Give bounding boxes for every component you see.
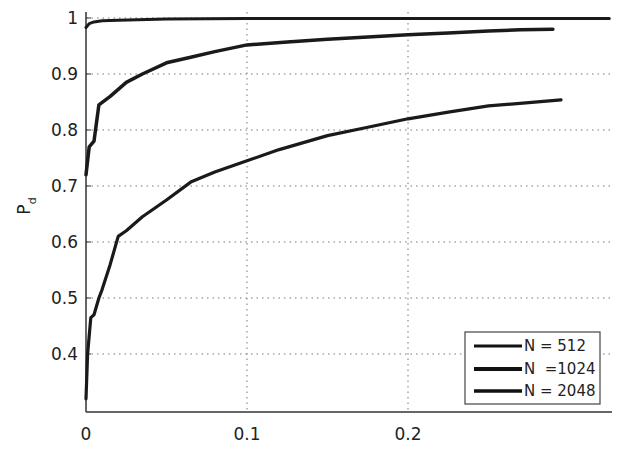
y-axis-label-main: P <box>14 204 34 214</box>
y-tick-label: 1 <box>67 8 78 28</box>
y-axis-label: Pd <box>14 197 39 214</box>
y-tick-label: 0.4 <box>51 344 78 364</box>
y-tick-label: 0.6 <box>51 232 78 252</box>
legend-label-512: N = 512 <box>524 337 586 355</box>
x-tick-label: 0.1 <box>233 424 260 444</box>
legend-label-2048: N = 2048 <box>524 382 596 400</box>
chart-figure: 0.40.50.60.70.80.9100.10.2 Pd N = 512 N … <box>0 0 624 452</box>
tick-labels: 0.40.50.60.70.80.9100.10.2 <box>51 8 422 444</box>
y-axis-label-sub: d <box>26 197 39 204</box>
legend: N = 512 N =1024 N = 2048 <box>465 332 600 404</box>
y-tick-label: 0.7 <box>51 176 78 196</box>
x-tick-label: 0 <box>81 424 92 444</box>
y-tick-label: 0.8 <box>51 120 78 140</box>
legend-label-1024: N =1024 <box>524 360 596 378</box>
y-tick-label: 0.5 <box>51 288 78 308</box>
svg-text:Pd: Pd <box>14 197 39 214</box>
x-tick-label: 0.2 <box>394 424 421 444</box>
series-line-512 <box>86 19 609 28</box>
y-tick-label: 0.9 <box>51 64 78 84</box>
series-line-1024 <box>86 29 553 175</box>
